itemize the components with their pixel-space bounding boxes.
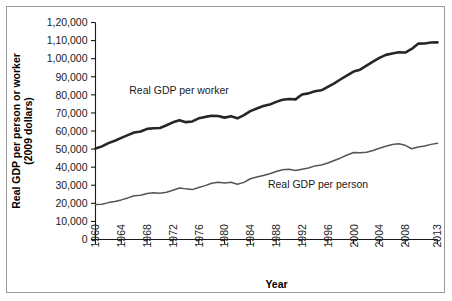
y-axis-title-line1: Real GDP per person or worker xyxy=(10,53,22,209)
y-axis-title: Real GDP per person or worker(2009 dolla… xyxy=(10,53,34,209)
x-tick-label: 2004 xyxy=(373,224,385,248)
y-tick-label: 50,000 xyxy=(55,143,87,155)
series-annotation: Real GDP per person xyxy=(268,178,368,190)
figure-container: 010,00020,00030,00040,00050,00060,00070,… xyxy=(0,0,452,301)
y-tick-label: 90,000 xyxy=(55,71,87,83)
x-tick-label: 1996 xyxy=(322,224,334,248)
y-axis: 010,00020,00030,00040,00050,00060,00070,… xyxy=(47,16,96,245)
x-tick-label: 2013 xyxy=(431,224,443,248)
x-tick-label: 1964 xyxy=(115,224,127,248)
y-tick-label: 30,000 xyxy=(55,179,87,191)
x-tick-label: 1988 xyxy=(270,224,282,248)
y-tick-label: 10,000 xyxy=(55,215,87,227)
series-annotations: Real GDP per workerReal GDP per person xyxy=(129,84,368,190)
y-tick-label: 1,10,000 xyxy=(47,34,88,46)
x-tick-label: 2000 xyxy=(348,224,360,248)
x-tick-label: 1992 xyxy=(296,224,308,248)
y-tick-label: 1,00,000 xyxy=(47,52,88,64)
y-tick-label: 70,000 xyxy=(55,107,87,119)
y-tick-label: 0 xyxy=(82,233,88,245)
y-tick-label: 40,000 xyxy=(55,161,87,173)
y-tick-label: 60,000 xyxy=(55,125,87,137)
x-tick-label: 1976 xyxy=(193,224,205,248)
series-annotation: Real GDP per worker xyxy=(129,84,229,96)
series-line-person xyxy=(96,143,438,204)
y-tick-label: 1,20,000 xyxy=(47,16,88,28)
y-axis-title-line2: (2009 dollars) xyxy=(22,97,34,165)
y-tick-label: 20,000 xyxy=(55,197,87,209)
x-tick-label: 1980 xyxy=(218,224,230,248)
x-axis: 1960196419681972197619801984198819921996… xyxy=(89,224,443,248)
x-tick-label: 2008 xyxy=(399,224,411,248)
x-tick-label: 1960 xyxy=(89,224,101,248)
x-axis-title: Year xyxy=(265,278,287,290)
data-series-group xyxy=(96,42,438,204)
x-tick-label: 1972 xyxy=(167,224,179,248)
y-tick-label: 80,000 xyxy=(55,89,87,101)
x-tick-label: 1984 xyxy=(244,224,256,248)
chart-svg: 010,00020,00030,00040,00050,00060,00070,… xyxy=(0,0,452,301)
x-tick-label: 1968 xyxy=(141,224,153,248)
